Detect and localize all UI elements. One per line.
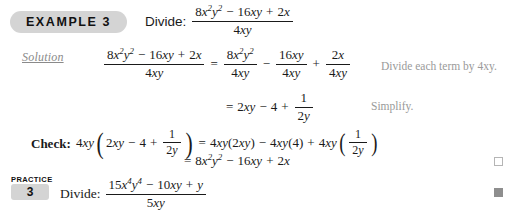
check-rhs-term-1: 4xy(2xy) bbox=[210, 135, 255, 151]
divide-command-label: Divide: bbox=[145, 14, 186, 29]
minus-sign-4: − bbox=[255, 135, 270, 151]
solution-term-2-fraction: 16xy 4xy bbox=[276, 48, 307, 80]
example-problem-denominator: 4xy bbox=[192, 21, 292, 38]
solution-term-3-numerator: 2x bbox=[329, 48, 347, 64]
paren-open-2: ( bbox=[338, 134, 346, 153]
minus-sign-3: − bbox=[124, 135, 139, 151]
practice-number-badge: 3 bbox=[11, 184, 49, 200]
solution-step-1: 8x2y2−16xy+2x 4xy = 8x2y2 4xy − 16xy 4xy… bbox=[102, 48, 352, 80]
paren-close-1: ) bbox=[184, 132, 193, 154]
solution-term-2-numerator: 16xy bbox=[276, 48, 307, 64]
solution-lhs-denominator: 4xy bbox=[104, 64, 204, 81]
solution-term-1-numerator: 8x2y2 bbox=[224, 48, 257, 64]
equals-sign: = bbox=[206, 56, 221, 72]
solution-term-1-denominator: 4xy bbox=[224, 64, 257, 81]
solution-lhs-numerator: 8x2y2−16xy+2x bbox=[104, 48, 204, 64]
solution-simplified-term-1: 2xy bbox=[237, 99, 255, 115]
solution-simplified-frac-denominator: 2y bbox=[295, 107, 313, 124]
practice-end-marker-icon bbox=[494, 188, 503, 197]
check-rhs-term-3-fraction: 1 2y bbox=[349, 128, 366, 158]
practice-problem-statement: Divide: 15x4y4−10xy+y 5xy bbox=[60, 178, 208, 210]
check-inner-term-1: 2xy bbox=[106, 135, 124, 151]
check-step-2: = 8x2y2−16xy+2x bbox=[180, 153, 290, 169]
annotation-divide-each-term: Divide each term by 4xy. bbox=[381, 60, 497, 72]
plus-sign-4: + bbox=[303, 135, 318, 151]
check-inner-fraction: 1 2y bbox=[163, 128, 180, 158]
plus-sign-3: + bbox=[146, 135, 161, 151]
check-label: Check: bbox=[31, 136, 71, 152]
check-inner-frac-denominator: 2y bbox=[163, 142, 180, 157]
practice-problem-numerator: 15x4y4−10xy+y bbox=[106, 178, 206, 194]
example-end-marker-icon bbox=[494, 157, 503, 166]
check-rhs-term-2: 4xy(4) bbox=[270, 135, 303, 151]
annotation-simplify: Simplify. bbox=[371, 100, 413, 112]
check-rhs-frac-denominator: 2y bbox=[349, 142, 366, 157]
solution-term-3-denominator: 4xy bbox=[326, 64, 350, 81]
example-problem-statement: Divide: 8x2y2−16xy+2x 4xy bbox=[145, 5, 295, 37]
practice-kicker-label: PRACTICE bbox=[11, 175, 53, 184]
equals-sign-3: = bbox=[195, 135, 210, 151]
equals-sign-2: = bbox=[222, 99, 237, 115]
practice-problem-fraction: 15x4y4−10xy+y 5xy bbox=[106, 178, 206, 210]
solution-simplified-frac-numerator: 1 bbox=[297, 91, 310, 107]
solution-lhs-fraction: 8x2y2−16xy+2x 4xy bbox=[104, 48, 204, 80]
solution-term-3-fraction: 2x 4xy bbox=[326, 48, 350, 80]
minus-sign-2: − bbox=[255, 99, 270, 115]
paren-open-1: ( bbox=[96, 132, 105, 154]
solution-simplified-fraction: 1 2y bbox=[295, 91, 313, 123]
check-rhs-term-3-factor: 4xy bbox=[319, 135, 337, 151]
plus-sign-2: + bbox=[277, 99, 292, 115]
check-inner-frac-numerator: 1 bbox=[166, 128, 178, 142]
solution-term-2-denominator: 4xy bbox=[276, 64, 307, 81]
example-problem-fraction: 8x2y2−16xy+2x 4xy bbox=[192, 5, 292, 37]
practice-problem-denominator: 5xy bbox=[106, 194, 206, 211]
example-problem-numerator: 8x2y2−16xy+2x bbox=[192, 5, 292, 21]
plus-sign-1: + bbox=[309, 56, 324, 72]
example-badge-label: EXAMPLE 3 bbox=[26, 15, 111, 29]
solution-label: Solution bbox=[22, 50, 64, 65]
minus-sign-1: − bbox=[259, 56, 274, 72]
check-rhs-frac-numerator: 1 bbox=[352, 128, 364, 142]
paren-close-2: ) bbox=[370, 134, 378, 153]
equals-sign-4: = bbox=[180, 153, 195, 169]
check-factor: 4xy bbox=[76, 135, 94, 151]
practice-number-label: 3 bbox=[27, 185, 34, 199]
example-badge: EXAMPLE 3 bbox=[10, 11, 127, 33]
check-result: 8x2y2−16xy+2x bbox=[195, 153, 289, 169]
solution-term-1-fraction: 8x2y2 4xy bbox=[224, 48, 257, 80]
solution-step-2: = 2xy − 4 + 1 2y bbox=[222, 91, 315, 123]
practice-divide-command-label: Divide: bbox=[60, 186, 101, 202]
